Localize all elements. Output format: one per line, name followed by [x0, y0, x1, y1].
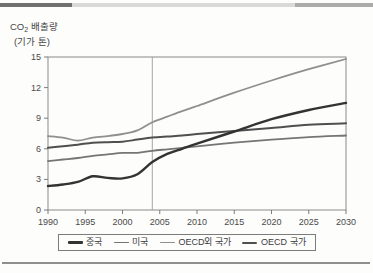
x-tick-label: 2015 [224, 217, 244, 227]
y-axis-title-line2: (기가 톤) [14, 36, 50, 47]
chart-svg: CO2배출량 (기가 톤) 03691215199019952000200520… [0, 0, 373, 232]
series-line-non-oecd [48, 59, 346, 141]
legend-label-usa: 미국 [132, 238, 148, 247]
x-tick-label: 2030 [336, 217, 356, 227]
top-rule-segment-medium [295, 3, 373, 7]
legend-item-non-oecd: OECD외 국가 [159, 238, 231, 247]
series-line-usa [48, 136, 346, 162]
scanned-chart-figure: CO2배출량 (기가 톤) 03691215199019952000200520… [0, 0, 373, 273]
y-tick-label: 15 [31, 52, 41, 62]
x-tick-label: 1990 [38, 217, 58, 227]
series-group [48, 59, 346, 186]
legend-marker-china [67, 241, 82, 243]
legend-label-china: 중국 [86, 238, 102, 247]
legend-marker-usa [113, 242, 128, 244]
series-line-china [48, 103, 346, 186]
x-tick-label: 1995 [75, 217, 95, 227]
legend-label-non-oecd: OECD외 국가 [178, 238, 231, 247]
top-rule-segment-dark [0, 3, 72, 7]
x-tick-label: 2010 [187, 217, 207, 227]
top-decorative-rule [0, 3, 373, 7]
legend: 중국미국OECD외 국가OECD 국가 [57, 234, 315, 251]
legend-item-usa: 미국 [113, 238, 148, 247]
top-rule-segment-light [72, 3, 295, 7]
y-tick-label: 0 [36, 205, 41, 215]
bottom-decorative-rule [2, 262, 370, 264]
x-tick-label: 2005 [150, 217, 170, 227]
x-tick-label: 2000 [112, 217, 132, 227]
ticks-group: 0369121519901995200020052010201520202025… [31, 52, 356, 227]
legend-label-oecd: OECD 국가 [261, 238, 306, 247]
y-tick-label: 6 [36, 144, 41, 154]
legend-marker-non-oecd [159, 242, 174, 244]
legend-item-oecd: OECD 국가 [242, 238, 306, 247]
legend-marker-oecd [242, 242, 257, 244]
y-tick-label: 9 [36, 113, 41, 123]
y-tick-label: 3 [36, 174, 41, 184]
x-tick-label: 2025 [299, 217, 319, 227]
y-tick-label: 12 [31, 83, 41, 93]
y-axis-title-line1: CO2배출량 [10, 21, 58, 33]
x-tick-label: 2020 [261, 217, 281, 227]
legend-item-china: 중국 [67, 238, 102, 247]
